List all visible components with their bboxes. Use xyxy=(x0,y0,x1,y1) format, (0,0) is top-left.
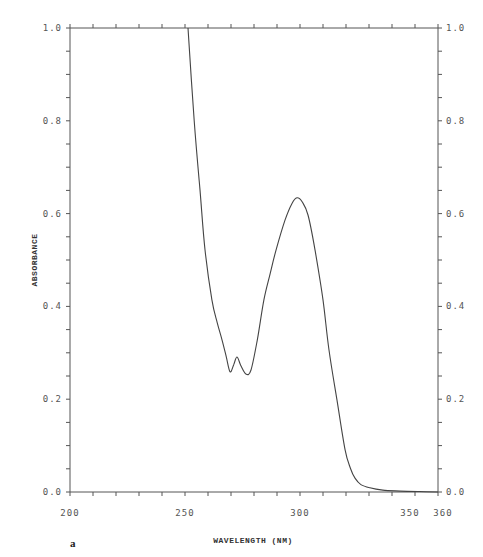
x-axis-title: WAVELENGTH (NM) xyxy=(213,536,293,545)
y-tick-label-right: 0.2 xyxy=(446,394,465,404)
y-tick-label-left: 0.4 xyxy=(43,301,62,311)
panel-label: a xyxy=(70,537,76,549)
x-tick-label: 350 xyxy=(400,508,419,518)
x-tick-label: 250 xyxy=(175,508,194,518)
y-tick-label-right: 0.0 xyxy=(446,487,465,497)
axes xyxy=(70,28,438,492)
tick-labels: 2002503003503601.00.80.60.40.20.01.00.80… xyxy=(43,23,466,518)
y-tick-label-left: 0.0 xyxy=(43,487,62,497)
y-tick-label-right: 0.6 xyxy=(446,209,465,219)
y-tick-label-left: 1.0 xyxy=(43,23,62,33)
y-axis-title: ABSORBANCE xyxy=(30,233,39,286)
y-tick-label-right: 0.8 xyxy=(446,116,465,126)
x-tick-label: 200 xyxy=(60,508,79,518)
x-tick-label: 360 xyxy=(433,508,452,518)
ticks xyxy=(66,24,442,496)
y-tick-label-left: 0.2 xyxy=(43,394,62,404)
y-tick-label-right: 1.0 xyxy=(446,23,465,33)
absorbance-chart: 2002503003503601.00.80.60.40.20.01.00.80… xyxy=(0,0,483,557)
y-tick-label-left: 0.6 xyxy=(43,209,62,219)
spectrum-line xyxy=(188,28,438,492)
plot-area xyxy=(188,28,438,492)
x-tick-label: 300 xyxy=(290,508,309,518)
y-tick-label-left: 0.8 xyxy=(43,116,62,126)
y-tick-label-right: 0.4 xyxy=(446,301,465,311)
